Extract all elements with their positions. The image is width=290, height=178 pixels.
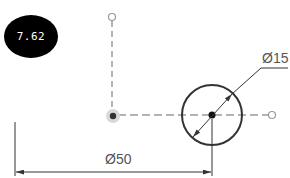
diameter-label[interactable]: Ø15 — [262, 50, 289, 66]
right-endpoint-handle[interactable] — [269, 112, 276, 119]
origin-point[interactable] — [110, 113, 116, 119]
hole-center-point[interactable] — [209, 112, 216, 119]
diameter-leader-line — [232, 68, 288, 94]
top-endpoint-handle[interactable] — [109, 14, 116, 21]
technical-drawing: Ø15 Ø50 — [0, 0, 290, 178]
distance-label[interactable]: Ø50 — [105, 151, 132, 167]
